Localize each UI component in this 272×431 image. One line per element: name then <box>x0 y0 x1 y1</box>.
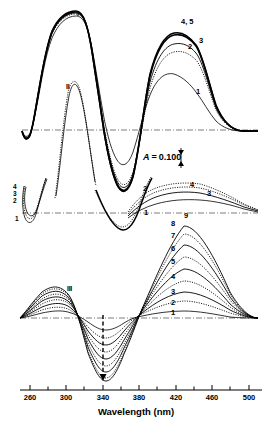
x-tick-label-340: 340 <box>97 393 110 402</box>
x-tick-label-420: 420 <box>170 393 183 402</box>
curve-label-bot-1: 1 <box>171 309 175 317</box>
curve-label-mid-3: 3 <box>207 190 211 198</box>
curve-label-top-2: 2 <box>188 43 192 51</box>
curve-label-mid-1: 1 <box>144 209 148 217</box>
panel-bottom-curve-5 <box>20 269 258 359</box>
curve-label-bot-9: 9 <box>184 212 188 220</box>
curve-label-mid-4: 4 <box>190 181 194 189</box>
x-axis-ticks <box>30 385 249 390</box>
curve-label-bot-4: 4 <box>171 273 175 281</box>
panel-top <box>22 11 258 198</box>
absorbance-scale-annotation: A=0.100 <box>143 152 181 162</box>
panel-bottom-curve-1 <box>20 311 258 330</box>
x-tick-label-460: 460 <box>206 393 219 402</box>
curve-label-bot-5: 5 <box>171 258 175 266</box>
panel-top-bandII-curve-b <box>55 81 96 198</box>
absorbance-equals: = <box>152 152 157 162</box>
x-tick-label-380: 380 <box>133 393 146 402</box>
x-tick-label-300: 300 <box>60 393 73 402</box>
panel-bottom-curve-2 <box>20 301 258 338</box>
x-tick-label-500: 500 <box>243 393 256 402</box>
x-axis-title: Wavelength (nm) <box>0 406 272 417</box>
panel-top-curve-3 <box>22 13 258 187</box>
curve-label-top-45: 4, 5 <box>181 18 194 26</box>
panel-top-curve-5 <box>22 11 258 191</box>
plot-canvas <box>0 0 272 431</box>
panel-bottom-curve-3 <box>20 292 258 345</box>
panel-bottom-curve-7 <box>20 245 258 372</box>
absorbance-value: 0.100 <box>159 152 182 162</box>
absorbance-symbol: A <box>143 152 150 162</box>
x-axis <box>20 385 262 390</box>
spectroscopy-figure: I II III 4, 5 3 2 1 2 4 3 1 4 3 2 1 9 8 … <box>0 0 272 431</box>
curve-label-mid-left-2: 2 <box>13 198 17 205</box>
curve-label-bot-7: 7 <box>171 232 175 240</box>
curve-label-mid-left-1: 1 <box>15 216 19 223</box>
panel-top-curve-2 <box>22 14 258 185</box>
curve-label-bot-8: 8 <box>171 220 175 228</box>
panel-bottom-curve-8 <box>20 234 258 378</box>
panel-top-curve-4 <box>22 12 258 190</box>
band-label-I: I <box>77 10 79 17</box>
curve-label-bot-3: 3 <box>171 288 175 296</box>
band-label-III: III <box>67 285 72 292</box>
curve-label-top-1: 1 <box>196 88 200 96</box>
curve-label-bot-6: 6 <box>171 245 175 253</box>
curve-label-mid-2: 2 <box>143 185 147 193</box>
curve-label-top-3: 3 <box>199 37 203 45</box>
panel-middle-left-tail-1 <box>23 178 46 223</box>
panel-bottom <box>20 226 258 381</box>
x-tick-label-260: 260 <box>24 393 37 402</box>
band-label-II: II <box>66 83 69 90</box>
curve-label-bot-2: 2 <box>171 299 175 307</box>
